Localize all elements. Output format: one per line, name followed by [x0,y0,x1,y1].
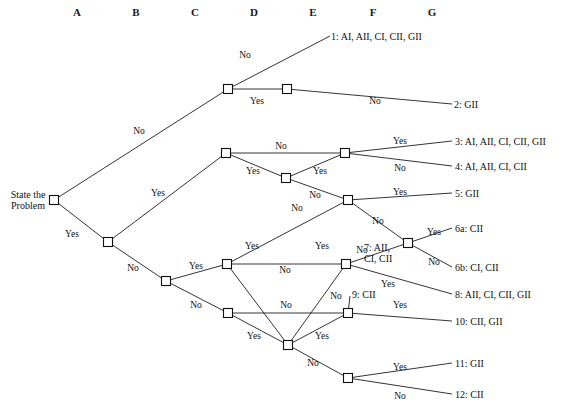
edge-label-no-D3-F2: No [291,203,303,213]
branch-line-B1-C1 [108,242,166,281]
outcome-label-out9: 9: CII [352,290,376,301]
edge-label-yes-D4-E3: Yes [247,331,261,341]
decision-node-G1[interactable] [404,239,413,248]
edge-label-yes-B1-D2: Yes [151,188,165,198]
edge-label-yes-E3-F3: Yes [315,241,329,251]
edge-label-yes-D3-E3: Yes [245,241,259,251]
decision-node-F5[interactable] [344,374,353,383]
edge-label-no-F1-out4: No [394,163,406,173]
edge-label-no-C1-D4: No [190,300,202,310]
column-header-a: A [67,6,87,18]
root-label-line: Problem [0,200,56,211]
edge-label-no-B1-C1: No [127,263,139,273]
tree-canvas [0,0,563,413]
outcome-label-out12: 12: CII [455,389,484,400]
edge-label-yes-D2-E2: Yes [246,166,260,176]
decision-node-B1[interactable] [104,238,113,247]
outcome-label-out11: 11: GII [455,358,484,369]
edge-label-no-D3-F3: No [279,265,291,275]
outcome-label-out2: 2: GII [454,99,478,110]
decision-node-F2[interactable] [344,196,353,205]
edge-label-yes-D1-E1: Yes [250,96,264,106]
decision-node-D1[interactable] [224,85,233,94]
branch-line-D3-F2 [227,200,348,264]
decision-node-E3[interactable] [284,341,293,350]
branch-line-A1-B1 [54,200,108,242]
decision-node-E2[interactable] [282,174,291,183]
column-header-f: F [363,6,383,18]
outcome-label-out10: 10: CII, GII [455,316,503,327]
edge-label-yes-E2-F1: Yes [313,166,327,176]
branch-line-A1-D1 [54,89,228,200]
edge-label-no-G1-out6b: No [428,257,440,267]
root-label-line: State the [0,189,56,200]
branch-line-F4-out10 [348,313,452,321]
edge-label-no-D2-F1: No [275,141,287,151]
column-header-d: D [244,6,264,18]
edge-label-no-E3-F5: No [307,358,319,368]
edge-label-yes-E3-F4: Yes [315,331,329,341]
branch-line-D1-out1 [228,36,330,89]
decision-node-D4[interactable] [224,309,233,318]
outcome-label-out8: 8: AII, CI, CII, GII [455,289,531,300]
decision-node-F4[interactable] [344,309,353,318]
edge-label-no-D4-F4: No [280,300,292,310]
edge-label-no-F4-out9: No [330,291,342,301]
edge-label-yes-G1-out6a: Yes [427,227,441,237]
outcome-label-out3: 3: AI, AII, CI, CII, GII [455,136,546,147]
root-node-label: State theProblem [0,189,56,211]
edge-label-yes-A1-B1: Yes [65,229,79,239]
edge-label-no-F2-G1: No [372,216,384,226]
edge-label-yes-F3-out8: Yes [381,279,395,289]
edge-label-no-F5-out12: No [394,391,406,401]
decision-node-F1[interactable] [341,149,350,158]
decision-tree-figure: ABCDEFG NoYesYesYesNoNoYesYesNoYesNoNoNo… [0,0,563,413]
decision-node-D2[interactable] [222,149,231,158]
column-header-e: E [303,6,323,18]
column-header-c: C [185,6,205,18]
decision-node-D3[interactable] [223,260,232,269]
decision-node-F3[interactable] [342,260,351,269]
outcome-label-out4: 4: AI, AII, CI, CII [455,161,527,172]
edge-label-yes-F5-out11: Yes [393,362,407,372]
outcome-label-out5: 5: GII [455,188,479,199]
decision-node-E1[interactable] [283,85,292,94]
edge-label-yes-F1-out3: Yes [393,136,407,146]
edge-label-yes-F4-out10: Yes [393,300,407,310]
edge-label-yes-F2-out5: Yes [393,187,407,197]
outcome-label-out6b: 6b: CI, CII [455,262,499,273]
edge-label-no-E2-F2: No [309,190,321,200]
column-header-g: G [422,6,442,18]
edge-label-no-E1-out2: No [369,96,381,106]
outcome-label-out7: 7: AII, CI, CII [364,243,392,264]
branch-line-B1-D2 [108,153,226,242]
edge-label-no-D1-out1: No [239,50,251,60]
outcome-label-out1: 1: AI, AII, CI, CII, GII [331,31,422,42]
decision-node-C1[interactable] [162,277,171,286]
node-layer [50,85,413,383]
outcome-label-out6a: 6a: CII [455,223,483,234]
edge-label-yes-C1-D3: Yes [189,261,203,271]
edge-label-no-A1-D1: No [133,126,145,136]
column-header-b: B [126,6,146,18]
